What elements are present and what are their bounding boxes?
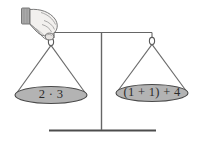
- balance-scale-drawing: 2 · 3 (1 + 1) + 4: [0, 0, 206, 143]
- right-pan-label: (1 + 1) + 4: [124, 85, 181, 99]
- sleeve-cuff: [22, 8, 31, 24]
- left-pan-label: 2 · 3: [39, 87, 63, 101]
- balance-scale-figure: 2 · 3 (1 + 1) + 4: [0, 0, 206, 143]
